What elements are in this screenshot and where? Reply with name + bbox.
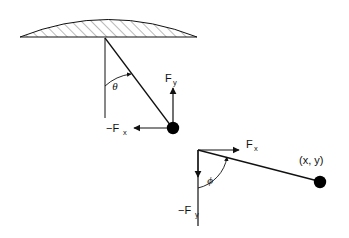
lower-force-x-subscript: x bbox=[254, 144, 258, 153]
point-coordinate-label: (x, y) bbox=[299, 154, 323, 166]
lower-force-y-label: −F bbox=[178, 204, 191, 216]
theta-angle-arc bbox=[105, 74, 131, 86]
lower-diagram-group: F x −F y ϕ (x, y) bbox=[178, 138, 326, 226]
lower-point-mass bbox=[314, 176, 326, 188]
physics-force-diagram: θ F y −F x F x −F y bbox=[0, 0, 349, 238]
lower-force-y-subscript: y bbox=[195, 210, 199, 219]
pendulum-bob bbox=[167, 122, 179, 134]
upper-diagram-group: θ F y −F x bbox=[20, 20, 197, 138]
lower-force-x-label: F bbox=[246, 138, 253, 150]
force-y-subscript: y bbox=[173, 78, 177, 87]
theta-label: θ bbox=[112, 80, 118, 92]
diagram-canvas: θ F y −F x F x −F y bbox=[0, 0, 349, 238]
force-x-negative-subscript: x bbox=[123, 128, 127, 137]
phi-label: ϕ bbox=[207, 174, 213, 186]
force-y-label: F bbox=[165, 72, 172, 84]
hatched-dome-support bbox=[20, 20, 197, 38]
force-x-negative-label: −F bbox=[106, 122, 119, 134]
